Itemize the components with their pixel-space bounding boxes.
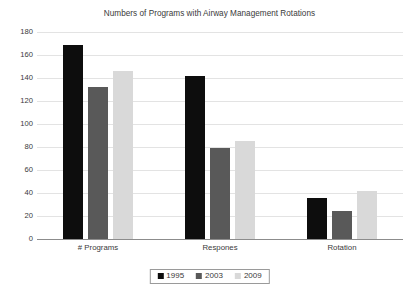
- legend-label: 2009: [244, 272, 262, 280]
- plot-area: [37, 32, 403, 239]
- legend-entry-1995: 1995: [157, 272, 184, 280]
- bar-2003-rotation: [332, 211, 352, 239]
- y-axis-tick-label: 120: [3, 97, 33, 105]
- bar-group: [281, 32, 403, 239]
- y-axis-tick-label: 60: [3, 166, 33, 174]
- bar-group: [37, 32, 159, 239]
- legend-swatch-icon: [157, 273, 163, 279]
- legend-entry-2003: 2003: [196, 272, 223, 280]
- legend-swatch-icon: [235, 273, 241, 279]
- bar-1995-rotation: [307, 198, 327, 239]
- y-axis-tick-label: 160: [3, 51, 33, 59]
- bar-2003-respones: [210, 148, 230, 239]
- chart-figure: Numbers of Programs with Airway Manageme…: [0, 0, 419, 296]
- y-axis-tick-label: 100: [3, 120, 33, 128]
- bar-2009-respones: [235, 141, 255, 239]
- chart-title: Numbers of Programs with Airway Manageme…: [0, 9, 419, 18]
- y-axis-tick-label: 20: [3, 212, 33, 220]
- y-axis-tick-label: 40: [3, 189, 33, 197]
- y-axis-tick-labels: 020406080100120140160180: [0, 32, 33, 239]
- bar-2009-rotation: [357, 191, 377, 239]
- bar-1995-programs: [63, 45, 83, 239]
- chart-legend: 199520032009: [149, 269, 269, 284]
- x-axis-line: [37, 239, 403, 240]
- legend-entry-2009: 2009: [235, 272, 262, 280]
- x-axis-tick-label: Respones: [159, 243, 281, 252]
- legend-swatch-icon: [196, 273, 202, 279]
- bar-2009-programs: [113, 71, 133, 239]
- y-axis-tick-label: 0: [3, 235, 33, 243]
- x-axis-tick-labels: # ProgramsResponesRotation: [37, 243, 403, 257]
- y-axis-tick-label: 180: [3, 28, 33, 36]
- bar-2003-programs: [88, 87, 108, 239]
- bar-1995-respones: [185, 76, 205, 239]
- bar-group: [159, 32, 281, 239]
- y-axis-tick-label: 140: [3, 74, 33, 82]
- legend-label: 1995: [166, 272, 184, 280]
- y-axis-tick-label: 80: [3, 143, 33, 151]
- x-axis-tick-label: # Programs: [37, 243, 159, 252]
- x-axis-tick-label: Rotation: [281, 243, 403, 252]
- legend-label: 2003: [205, 272, 223, 280]
